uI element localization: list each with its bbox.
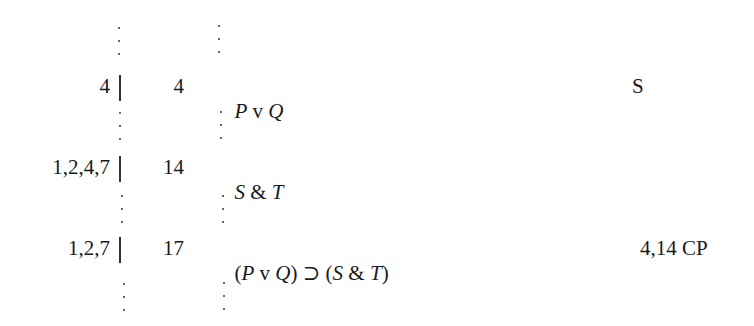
ellipsis-dot (218, 51, 220, 53)
formula: (P v Q) ⊃ (S & T) (224, 236, 389, 286)
line-number: 4 (124, 74, 184, 99)
formula-atom: P (235, 99, 248, 123)
scope-bar (119, 237, 121, 263)
formula: S & T (224, 155, 284, 205)
line-number: 17 (124, 236, 184, 261)
formula-atom: T (272, 180, 284, 204)
ellipsis-dot (223, 295, 225, 297)
formula-connective: & (245, 180, 272, 204)
ellipsis-dot (118, 27, 120, 29)
formula-atom: Q (268, 99, 283, 123)
formula-atom: Q (275, 261, 290, 285)
ellipsis-dot (119, 112, 121, 114)
ellipsis-dot (123, 309, 125, 311)
dependency-set: 1,2,4,7 (0, 155, 110, 180)
paren: ( (235, 261, 242, 285)
formula-connective: v (254, 261, 275, 285)
formula: P v Q (224, 74, 284, 124)
ellipsis-dot (220, 111, 222, 113)
ellipsis-dot (119, 125, 121, 127)
ellipsis-dot (119, 138, 121, 140)
ellipsis-dot (118, 53, 120, 55)
ellipsis-dot (218, 25, 220, 27)
ellipsis-dot (218, 38, 220, 40)
horseshoe-connective: ⊃ (298, 261, 326, 285)
ellipsis-dot (223, 308, 225, 310)
ellipsis-dot (118, 40, 120, 42)
formula-atom: S (333, 261, 344, 285)
ellipsis-dot (222, 221, 224, 223)
ellipsis-dot (121, 208, 123, 210)
ellipsis-dot (123, 296, 125, 298)
formula-connective: & (343, 261, 370, 285)
ellipsis-dot (121, 221, 123, 223)
ellipsis-dot (220, 137, 222, 139)
justification: 4,14 CP (640, 236, 708, 261)
line-number: 14 (124, 155, 184, 180)
scope-bar (119, 156, 121, 182)
justification: S (632, 74, 644, 99)
paren: ) (291, 261, 298, 285)
dependency-set: 4 (0, 74, 110, 99)
ellipsis-dot (123, 283, 125, 285)
ellipsis-dot (222, 208, 224, 210)
formula-atom: P (242, 261, 255, 285)
formula-atom: S (235, 180, 246, 204)
ellipsis-dot (220, 124, 222, 126)
scope-bar (119, 75, 121, 101)
paren: ( (326, 261, 333, 285)
paren: ) (382, 261, 389, 285)
ellipsis-dot (121, 195, 123, 197)
formula-atom: T (370, 261, 382, 285)
dependency-set: 1,2,7 (0, 236, 110, 261)
formula-connective: v (247, 99, 268, 123)
